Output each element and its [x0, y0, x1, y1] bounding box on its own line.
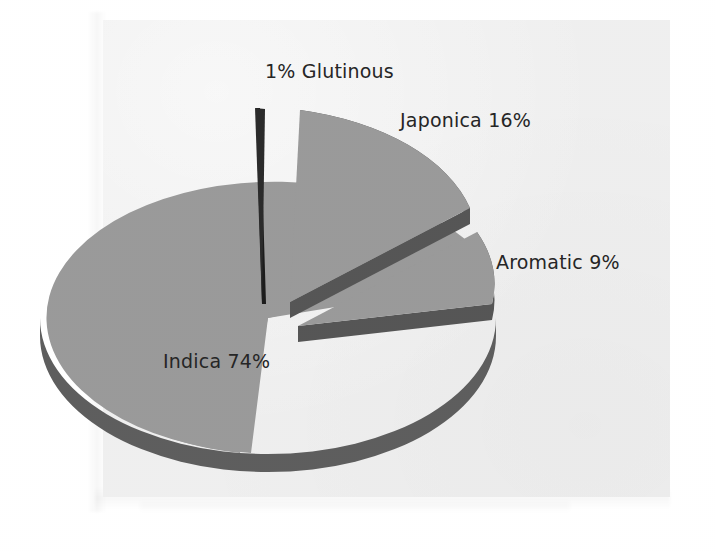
pie-label-japonica: Japonica 16% [400, 111, 531, 130]
pie-label-aromatic: Aromatic 9% [496, 253, 620, 272]
scanned-page: 1% Glutinous Japonica 16% Aromatic 9% In… [0, 0, 715, 551]
pie-label-indica: Indica 74% [163, 352, 270, 371]
pie-chart-graphic [0, 0, 715, 551]
pie-label-glutinous: 1% Glutinous [265, 62, 394, 81]
